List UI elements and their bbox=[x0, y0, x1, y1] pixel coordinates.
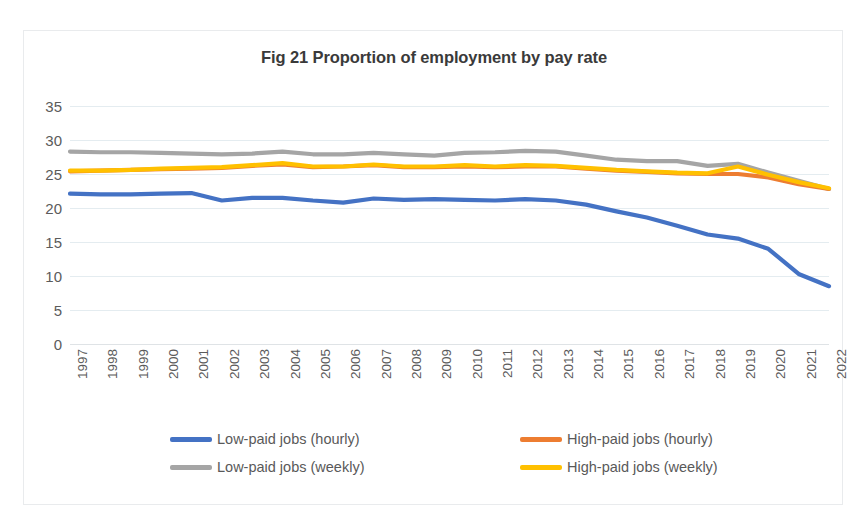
x-axis-tick-label: 2013 bbox=[561, 349, 576, 379]
chart-title: Fig 21 Proportion of employment by pay r… bbox=[24, 48, 844, 67]
legend-item[interactable]: High-paid jobs (hourly) bbox=[434, 431, 784, 447]
x-axis-tick-label: 1999 bbox=[136, 349, 151, 379]
legend-swatch-icon bbox=[520, 465, 562, 470]
x-axis-tick-label: 2016 bbox=[652, 349, 667, 379]
x-axis-tick-label: 2009 bbox=[439, 349, 454, 379]
legend-item[interactable]: Low-paid jobs (hourly) bbox=[84, 431, 434, 447]
legend-label: High-paid jobs (weekly) bbox=[567, 459, 718, 475]
x-axis-tick-label: 2011 bbox=[500, 349, 515, 378]
x-axis-tick-label: 2022 bbox=[834, 349, 849, 379]
legend-label: High-paid jobs (hourly) bbox=[567, 431, 713, 447]
x-axis-tick-label: 1997 bbox=[75, 349, 90, 379]
x-axis-tick-label: 2017 bbox=[682, 349, 697, 379]
chart-container: Fig 21 Proportion of employment by pay r… bbox=[23, 30, 843, 505]
legend-item[interactable]: High-paid jobs (weekly) bbox=[434, 459, 784, 475]
y-axis-tick-label: 20 bbox=[32, 200, 62, 217]
legend-label: Low-paid jobs (hourly) bbox=[217, 431, 360, 447]
x-axis-tick-label: 2020 bbox=[773, 349, 788, 379]
y-axis-tick-label: 10 bbox=[32, 268, 62, 285]
series-line bbox=[70, 193, 829, 286]
x-axis-tick-label: 2007 bbox=[379, 349, 394, 379]
x-axis-tick-label: 2010 bbox=[470, 349, 485, 379]
x-axis-tick-label: 2015 bbox=[621, 349, 636, 379]
x-axis-tick-label: 2006 bbox=[348, 349, 363, 379]
y-axis-tick-label: 0 bbox=[32, 336, 62, 353]
y-axis-tick-label: 25 bbox=[32, 166, 62, 183]
plot-area bbox=[70, 106, 829, 344]
y-axis-tick-label: 15 bbox=[32, 234, 62, 251]
y-axis-tick-label: 30 bbox=[32, 132, 62, 149]
legend-swatch-icon bbox=[170, 465, 212, 470]
x-axis-tick-label: 2008 bbox=[409, 349, 424, 379]
x-axis-tick-label: 2005 bbox=[318, 349, 333, 379]
legend-label: Low-paid jobs (weekly) bbox=[217, 459, 364, 475]
x-axis-tick-label: 2001 bbox=[196, 349, 211, 379]
chart-legend: Low-paid jobs (hourly)High-paid jobs (ho… bbox=[84, 431, 784, 475]
x-axis-tick-label: 2019 bbox=[743, 349, 758, 379]
x-axis-tick-label: 2000 bbox=[166, 349, 181, 379]
legend-swatch-icon bbox=[170, 437, 212, 442]
y-axis-tick-label: 35 bbox=[32, 98, 62, 115]
x-axis-tick-label: 2002 bbox=[227, 349, 242, 379]
y-axis: 05101520253035 bbox=[32, 106, 62, 344]
x-axis-tick-label: 2018 bbox=[713, 349, 728, 379]
x-axis-tick-label: 2014 bbox=[591, 349, 606, 379]
x-axis: 1997199819992000200120022003200420052006… bbox=[70, 349, 829, 429]
y-axis-tick-label: 5 bbox=[32, 302, 62, 319]
x-axis-tick-label: 2012 bbox=[530, 349, 545, 379]
legend-swatch-icon bbox=[520, 437, 562, 442]
gridline bbox=[70, 344, 829, 345]
x-axis-tick-label: 1998 bbox=[105, 349, 120, 379]
x-axis-tick-label: 2003 bbox=[257, 349, 272, 379]
x-axis-tick-label: 2004 bbox=[288, 349, 303, 379]
legend-item[interactable]: Low-paid jobs (weekly) bbox=[84, 459, 434, 475]
x-axis-tick-label: 2021 bbox=[804, 349, 819, 379]
series-svg bbox=[70, 106, 829, 344]
